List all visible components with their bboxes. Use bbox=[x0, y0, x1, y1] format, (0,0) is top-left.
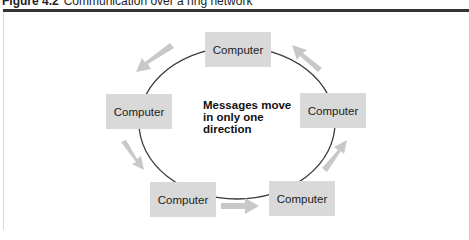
arrow-icon-top-to-left bbox=[136, 43, 174, 72]
arrow-icon-left-to-bottom bbox=[121, 140, 144, 170]
note-line: in only one bbox=[203, 111, 293, 123]
arrow-icon-right-to-top bbox=[292, 45, 322, 72]
direction-note: Messages move in only one direction bbox=[203, 99, 293, 135]
computer-node-bottom-left: Computer bbox=[150, 182, 216, 217]
node-label: Computer bbox=[114, 106, 165, 118]
note-line: direction bbox=[203, 123, 293, 135]
node-label: Computer bbox=[308, 105, 359, 117]
node-label: Computer bbox=[158, 194, 209, 206]
node-label: Computer bbox=[277, 193, 328, 205]
computer-node-left: Computer bbox=[106, 94, 172, 129]
computer-node-top: Computer bbox=[205, 32, 271, 67]
arrow-icon-bottom-to-bottom-right bbox=[221, 198, 259, 214]
node-label: Computer bbox=[213, 44, 264, 56]
computer-node-bottom-right: Computer bbox=[269, 181, 335, 216]
computer-node-right: Computer bbox=[300, 93, 366, 128]
note-line: Messages move bbox=[203, 99, 293, 111]
